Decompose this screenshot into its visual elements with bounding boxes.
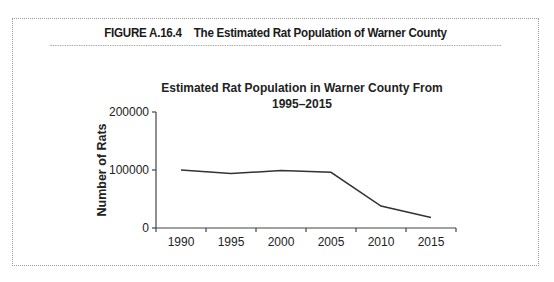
x-tick-2015: 2015 bbox=[418, 235, 445, 249]
y-axis-label: Number of Rats bbox=[95, 123, 109, 216]
y-tick-200000: 200000 bbox=[109, 105, 149, 119]
chart-title-line1: Estimated Rat Population in Warner Count… bbox=[161, 81, 443, 95]
data-series-line bbox=[181, 170, 431, 218]
y-tick-0: 0 bbox=[142, 221, 149, 235]
x-tick-2005: 2005 bbox=[318, 235, 345, 249]
x-tick-2000: 2000 bbox=[268, 235, 295, 249]
chart-title-line2: 1995–2015 bbox=[272, 97, 332, 111]
x-tick-2010: 2010 bbox=[368, 235, 395, 249]
y-tick-100000: 100000 bbox=[109, 163, 149, 177]
y-axis: 200000 100000 0 bbox=[109, 105, 156, 235]
x-tick-1990: 1990 bbox=[168, 235, 195, 249]
x-axis: 1990 1995 2000 2005 2010 2015 bbox=[156, 228, 456, 249]
line-chart: Estimated Rat Population in Warner Count… bbox=[0, 0, 554, 282]
x-tick-1995: 1995 bbox=[218, 235, 245, 249]
